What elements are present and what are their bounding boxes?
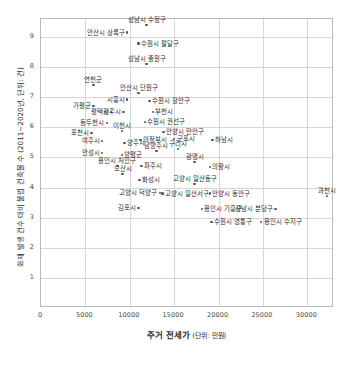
- x-tick-label: 15000: [153, 311, 193, 319]
- data-point-label: 화성시: [142, 177, 160, 183]
- data-point-label: 가평군: [73, 103, 91, 109]
- data-point[interactable]: [92, 84, 94, 86]
- gridline-vertical: [307, 19, 308, 306]
- data-point[interactable]: [106, 122, 108, 124]
- data-point[interactable]: [140, 165, 142, 167]
- data-point-label: 파주시: [144, 163, 162, 169]
- data-point[interactable]: [211, 139, 213, 141]
- data-point-label: 남양주시: [144, 143, 168, 149]
- data-point-label: 시흥시: [107, 97, 125, 103]
- data-point-label: 성남시 분당구: [235, 206, 273, 212]
- data-point[interactable]: [201, 208, 203, 210]
- gridline-horizontal: [41, 37, 332, 38]
- data-point-label: 수원시 장안구: [152, 98, 190, 104]
- data-point-label: 성남시 수정구: [128, 17, 166, 23]
- data-point-label: 의왕시: [212, 164, 230, 170]
- data-point-label: 연천군: [84, 77, 102, 83]
- data-point[interactable]: [90, 132, 92, 134]
- data-point-label: 안산시 상록구: [87, 30, 125, 36]
- x-tick-label: 5000: [64, 311, 104, 319]
- data-point-label: 양주시: [127, 140, 145, 146]
- gridline-vertical: [174, 19, 175, 306]
- data-point[interactable]: [152, 111, 154, 113]
- data-point-label: 과천시: [318, 188, 336, 194]
- data-point[interactable]: [123, 142, 125, 144]
- data-point[interactable]: [137, 207, 139, 209]
- gridline-horizontal: [41, 278, 332, 279]
- data-point-label: 부천시: [155, 109, 173, 115]
- data-point[interactable]: [193, 183, 195, 185]
- data-point-label: 수원시 권선구: [147, 119, 185, 125]
- data-point[interactable]: [121, 173, 123, 175]
- scatter-chart: 안산시 상록구성남시 수정구수원시 팔달구성남시 중원구연천군안산시 단원구시흥…: [0, 0, 348, 376]
- y-axis-title: 화재 발생 건수 대비 불법 건축물 수 (2011~2020년, 단위: 건): [15, 17, 25, 317]
- data-point-label: 안산시 단원구: [120, 85, 158, 91]
- data-point-label: 동두천시: [80, 120, 104, 126]
- data-point-label: 용인시 처인구: [98, 158, 136, 164]
- data-point[interactable]: [101, 152, 103, 154]
- data-point[interactable]: [145, 24, 147, 26]
- x-axis-title-main: 주거 전세가: [147, 330, 190, 340]
- data-point-label: 포천시: [71, 130, 89, 136]
- x-tick-label: 0: [20, 311, 60, 319]
- gridline-horizontal: [41, 248, 332, 249]
- x-axis-title-unit: (단위: 만원): [192, 332, 226, 340]
- data-point-label: 용인시 수지구: [264, 219, 302, 225]
- data-point-label: 구리시: [169, 141, 187, 147]
- data-point-label: 수원시 팔달구: [141, 41, 179, 47]
- data-point[interactable]: [126, 98, 128, 100]
- data-point[interactable]: [326, 195, 328, 197]
- data-point[interactable]: [121, 154, 123, 156]
- data-point-label: 광주시: [103, 109, 121, 115]
- x-tick-label: 30000: [286, 311, 326, 319]
- x-tick-label: 20000: [198, 311, 238, 319]
- data-point[interactable]: [137, 42, 139, 44]
- data-point[interactable]: [101, 140, 103, 142]
- data-point[interactable]: [148, 100, 150, 102]
- data-point[interactable]: [274, 208, 276, 210]
- data-point-label: 오산시: [114, 166, 132, 172]
- data-point[interactable]: [209, 192, 211, 194]
- data-point-label: 성남시 중원구: [128, 56, 166, 62]
- data-point[interactable]: [177, 148, 179, 150]
- data-point-label: 김포시: [118, 205, 136, 211]
- gridline-horizontal: [41, 67, 332, 68]
- data-point-label: 안성시: [82, 150, 100, 156]
- data-point-label: 이천시: [113, 123, 131, 129]
- data-point-label: 고양시 일산동구: [173, 176, 217, 182]
- x-tick-label: 25000: [242, 311, 282, 319]
- gridline-vertical: [263, 19, 264, 306]
- gridline-vertical: [85, 19, 86, 306]
- gridline-horizontal: [41, 188, 332, 189]
- data-point[interactable]: [209, 166, 211, 168]
- data-point[interactable]: [138, 179, 140, 181]
- data-point[interactable]: [126, 31, 128, 33]
- data-point-label: 안양시 동안구: [212, 191, 250, 197]
- data-point[interactable]: [155, 150, 157, 152]
- data-point-label: 고양시 덕양구: [119, 190, 157, 196]
- data-point-label: 수원시 영통구: [214, 219, 252, 225]
- data-point[interactable]: [145, 63, 147, 65]
- data-point[interactable]: [162, 131, 164, 133]
- x-tick-label: 10000: [109, 311, 149, 319]
- data-point[interactable]: [144, 121, 146, 123]
- data-point[interactable]: [210, 221, 212, 223]
- data-point[interactable]: [161, 192, 163, 194]
- data-point[interactable]: [92, 105, 94, 107]
- x-axis-title: 주거 전세가 (단위: 만원): [40, 328, 333, 340]
- plot-area: 안산시 상록구성남시 수정구수원시 팔달구성남시 중원구연천군안산시 단원구시흥…: [40, 18, 333, 307]
- data-point[interactable]: [193, 161, 195, 163]
- data-point-label: 고양시 일산서구: [165, 191, 209, 197]
- data-point-label: 광명시: [186, 154, 204, 160]
- data-point[interactable]: [137, 92, 139, 94]
- data-point[interactable]: [121, 130, 123, 132]
- data-point-label: 하남시: [215, 137, 233, 143]
- data-point-label: 여주시: [82, 138, 100, 144]
- data-point[interactable]: [122, 111, 124, 113]
